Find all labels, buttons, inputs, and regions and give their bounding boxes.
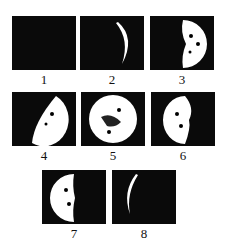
phase-label-5: 5 bbox=[81, 148, 145, 164]
waning-gibbous-icon bbox=[151, 92, 215, 146]
phase-panel-6 bbox=[151, 92, 215, 146]
phase-label-3: 3 bbox=[150, 72, 214, 88]
phase-label-2: 2 bbox=[80, 72, 144, 88]
phase-panel-7 bbox=[42, 170, 106, 224]
phase-panel-8 bbox=[112, 170, 176, 224]
last-quarter-icon bbox=[42, 170, 106, 224]
waning-crescent-icon bbox=[112, 170, 176, 224]
phase-label-1: 1 bbox=[12, 72, 76, 88]
phase-panel-2 bbox=[80, 16, 144, 70]
phase-label-8: 8 bbox=[112, 226, 176, 242]
phase-label-4: 4 bbox=[12, 148, 76, 164]
full-moon-icon bbox=[81, 92, 145, 146]
waxing-gibbous-icon bbox=[12, 92, 76, 146]
phase-panel-5 bbox=[81, 92, 145, 146]
phase-label-6: 6 bbox=[151, 148, 215, 164]
phase-panel-1 bbox=[12, 16, 76, 70]
waxing-crescent-icon bbox=[80, 16, 144, 70]
phase-panel-4 bbox=[12, 92, 76, 146]
phase-label-7: 7 bbox=[42, 226, 106, 242]
phase-panel-3 bbox=[150, 16, 214, 70]
first-quarter-icon bbox=[150, 16, 214, 70]
